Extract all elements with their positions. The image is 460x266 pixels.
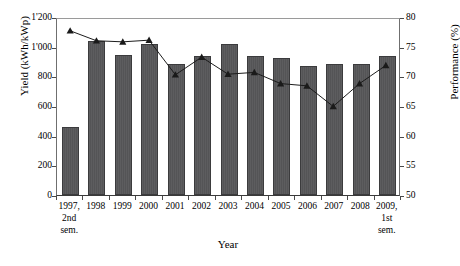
secondary-y-axis-tick-mark [400, 18, 404, 19]
secondary-y-axis-tick-mark [400, 48, 404, 49]
y-axis-tick-label: 1'200 [31, 13, 52, 23]
x-axis-category-label: 2009,1stsem. [370, 200, 404, 236]
plot-area [56, 18, 400, 196]
y-axis-title: Yield (kWh/kWp) [18, 0, 30, 116]
secondary-y-axis-tick-label: 70 [406, 72, 416, 82]
data-point-marker [198, 54, 205, 60]
data-point-marker [145, 37, 152, 43]
secondary-y-axis-tick-mark [400, 166, 404, 167]
data-point-marker [251, 69, 258, 75]
data-point-marker [356, 80, 363, 86]
y-axis-tick-label: 400 [38, 132, 52, 142]
performance-line [70, 31, 386, 107]
data-point-marker [93, 37, 100, 43]
secondary-y-axis-tick-label: 55 [406, 161, 416, 171]
y-axis-tick-label: 200 [38, 161, 52, 171]
y-axis-tick-label: 1'000 [31, 43, 52, 53]
secondary-y-axis-tick-mark [400, 77, 404, 78]
secondary-y-axis-tick-label: 75 [406, 43, 416, 53]
data-point-marker [67, 27, 74, 33]
secondary-y-axis-tick-label: 65 [406, 102, 416, 112]
y-axis-tick-label: 600 [38, 102, 52, 112]
data-point-marker [382, 62, 389, 68]
secondary-y-axis-tick-mark [400, 137, 404, 138]
x-axis-title: Year [0, 238, 456, 250]
line-series-layer [57, 19, 399, 195]
secondary-y-axis-tick-label: 80 [406, 13, 416, 23]
data-point-marker [277, 80, 284, 86]
secondary-y-axis-title: Performance (%) [448, 2, 460, 122]
y-axis-tick-label: 800 [38, 72, 52, 82]
secondary-y-axis-tick-label: 60 [406, 132, 416, 142]
secondary-y-axis-tick-mark [400, 107, 404, 108]
secondary-y-axis-tick-label: 50 [406, 191, 416, 201]
